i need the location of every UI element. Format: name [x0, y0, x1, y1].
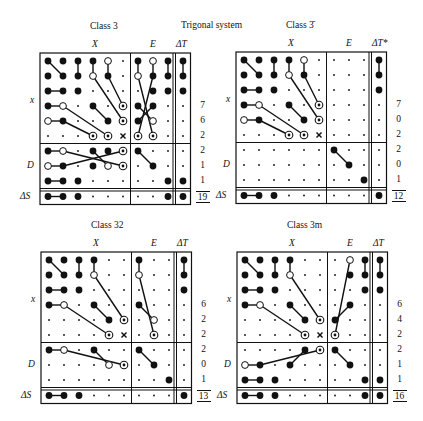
trigonal-system-figure: Trigonal system Class 3XEΔTxDΔS76221119C… — [0, 0, 423, 421]
grid-class-3m — [0, 0, 423, 421]
